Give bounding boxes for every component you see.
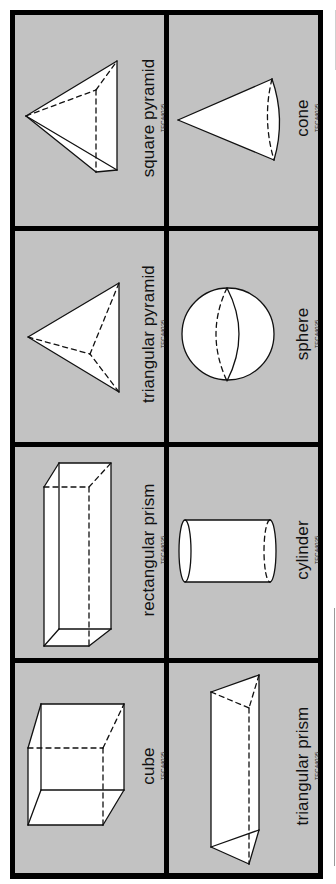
label-cube: cube TEC44035: [140, 691, 170, 841]
product-code: TEC44035: [314, 475, 320, 625]
label-cone: cone TEC44035: [294, 43, 324, 193]
shape-name: sphere: [294, 259, 311, 409]
product-code: TEC44035: [314, 43, 320, 193]
shape-cards-sheet: square pyramid TEC44035 cone TEC44035 tr…: [0, 0, 336, 884]
product-code: TEC44035: [160, 43, 166, 193]
product-code: TEC44035: [160, 691, 166, 841]
label-rectangular-prism: rectangular prism TEC44035: [140, 475, 170, 625]
cone-icon: [178, 79, 280, 160]
shape-name: cone: [294, 43, 311, 193]
product-code: TEC44035: [160, 475, 166, 625]
triangular-pyramid-icon: [28, 283, 119, 392]
shape-name: square pyramid: [140, 43, 157, 193]
page-edge-line: [334, 608, 335, 866]
triangular-prism-icon: [211, 675, 259, 864]
shape-name: cube: [140, 691, 157, 841]
shape-name: triangular pyramid: [140, 259, 157, 409]
label-triangular-prism: triangular prism TEC44035: [294, 691, 324, 841]
sphere-icon: [182, 288, 274, 381]
shape-name: triangular prism: [294, 691, 311, 841]
square-pyramid-icon: [26, 61, 117, 172]
cube-icon: [28, 704, 124, 825]
product-code: TEC44035: [314, 259, 320, 409]
product-code: TEC44035: [160, 259, 166, 409]
shape-name: cylinder: [294, 475, 311, 625]
label-cylinder: cylinder TEC44035: [294, 475, 324, 625]
product-code: TEC44035: [314, 691, 320, 841]
shape-name: rectangular prism: [140, 475, 157, 625]
rectangular-prism-icon: [44, 463, 111, 646]
cylinder-icon: [179, 520, 276, 582]
label-triangular-pyramid: triangular pyramid TEC44035: [140, 259, 170, 409]
label-square-pyramid: square pyramid TEC44035: [140, 43, 170, 193]
label-sphere: sphere TEC44035: [294, 259, 324, 409]
